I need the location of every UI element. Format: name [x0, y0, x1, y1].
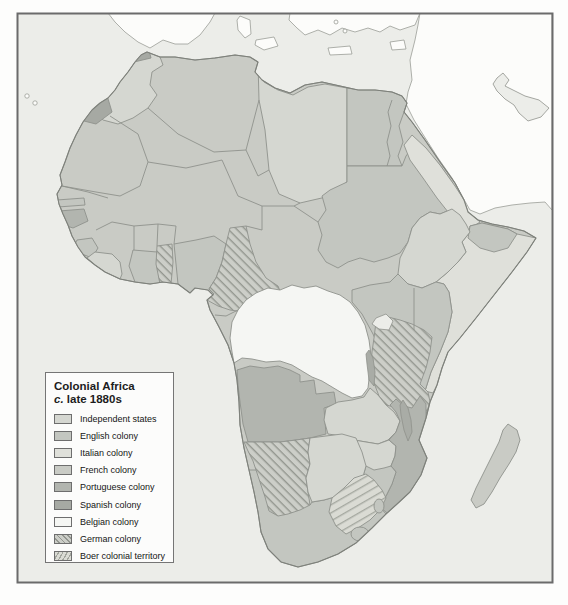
legend-swatch-english: [54, 431, 72, 441]
legend-item-italian: Italian colony: [54, 444, 168, 461]
aegean-islet: [343, 29, 347, 33]
region-gold-coast: [129, 250, 160, 284]
legend-swatch-belgian: [54, 517, 72, 527]
legend-title: Colonial Africa: [54, 380, 168, 393]
legend-subtitle-circa: c.: [54, 393, 64, 405]
legend-swatch-independent: [54, 414, 72, 424]
legend-item-belgian: Belgian colony: [54, 513, 168, 530]
legend-item-english: English colony: [54, 427, 168, 444]
cyprus-island: [390, 40, 406, 50]
legend-subtitle: c. late 1880s: [54, 393, 168, 406]
region-egypt: [347, 88, 407, 166]
canary-islet: [25, 94, 29, 98]
legend: Colonial Africa c. late 1880s Independen…: [45, 372, 174, 563]
legend-item-portuguese: Portuguese colony: [54, 479, 168, 496]
crete-island: [328, 46, 352, 55]
legend-swatch-italian: [54, 448, 72, 458]
legend-item-spanish: Spanish colony: [54, 496, 168, 513]
legend-swatch-french: [54, 465, 72, 475]
legend-item-independent: Independent states: [54, 410, 168, 427]
legend-subtitle-date: late 1880s: [64, 393, 122, 405]
legend-item-boer: Boer colonial territory: [54, 548, 168, 565]
legend-item-french: French colony: [54, 462, 168, 479]
legend-item-german: German colony: [54, 530, 168, 547]
region-swaziland: [374, 499, 384, 513]
legend-swatch-portuguese: [54, 482, 72, 492]
aegean-islet: [334, 20, 338, 24]
region-gambia: [57, 198, 85, 207]
legend-swatch-spanish: [54, 500, 72, 510]
legend-swatch-german: [54, 534, 72, 544]
canary-islet: [33, 101, 37, 105]
region-togo: [156, 244, 173, 284]
legend-swatch-boer: [54, 551, 72, 561]
